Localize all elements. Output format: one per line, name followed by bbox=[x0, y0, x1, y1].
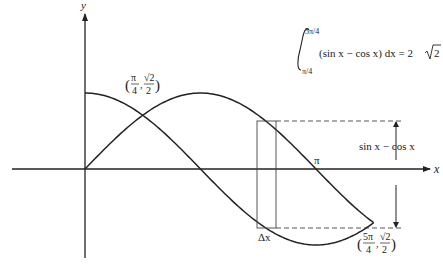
area-between-curves-diagram: x y π sin x − cos x Δx ( π 4 , √2 2 ) ( … bbox=[0, 0, 443, 267]
svg-text:2: 2 bbox=[382, 244, 387, 255]
svg-text:5π: 5π bbox=[363, 231, 373, 242]
width-label: Δx bbox=[258, 231, 271, 243]
svg-text:(: ( bbox=[357, 236, 362, 253]
svg-text:5π/4: 5π/4 bbox=[305, 27, 319, 36]
svg-text:4: 4 bbox=[132, 85, 137, 96]
integral-formula: 5π/4 π/4 (sin x − cos x) dx = 2 2 bbox=[298, 27, 441, 76]
svg-text:(: ( bbox=[125, 77, 130, 94]
height-label: sin x − cos x bbox=[359, 140, 415, 152]
svg-text:π/4: π/4 bbox=[302, 67, 312, 76]
svg-text:,: , bbox=[376, 238, 379, 249]
svg-text:,: , bbox=[140, 79, 143, 90]
right-intersection-label: ( 5π 4 , √2 2 ) bbox=[357, 231, 396, 255]
x-tick-pi: π bbox=[314, 154, 320, 166]
svg-text:√2: √2 bbox=[380, 231, 391, 242]
svg-text:π: π bbox=[131, 72, 136, 83]
svg-text:2: 2 bbox=[146, 85, 151, 96]
svg-text:): ) bbox=[155, 77, 160, 94]
sin-curve bbox=[85, 93, 374, 223]
left-intersection-label: ( π 4 , √2 2 ) bbox=[125, 72, 160, 96]
svg-text:√2: √2 bbox=[144, 72, 155, 83]
y-axis-label: y bbox=[80, 0, 86, 11]
svg-text:4: 4 bbox=[366, 244, 371, 255]
svg-text:2: 2 bbox=[434, 47, 440, 59]
svg-text:(sin x − cos x) dx = 2: (sin x − cos x) dx = 2 bbox=[319, 47, 413, 60]
svg-text:): ) bbox=[391, 236, 396, 253]
representative-rectangle bbox=[257, 121, 276, 228]
x-axis-label: x bbox=[433, 162, 440, 176]
